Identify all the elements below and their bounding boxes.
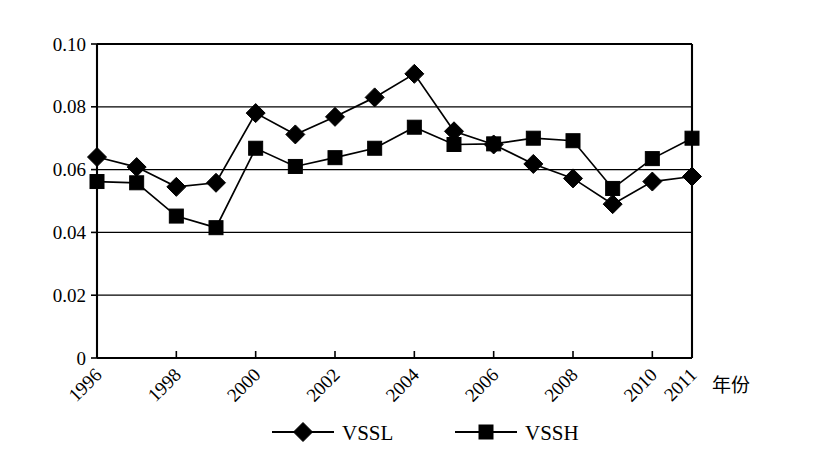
x-tick-labels-group: 199619982000200220042006200820102011 [64,364,701,406]
y-tick-label-0.04: 0.04 [53,222,87,243]
data-point-vssl-2009 [603,195,622,214]
data-point-vssh-2011 [685,131,699,145]
x-tick-label-2002: 2002 [302,364,344,406]
data-point-vssh-1999 [209,221,223,235]
legend-label-vssl: VSSL [342,421,393,445]
line-chart: 00.020.040.060.080.10 199619982000200220… [0,0,817,470]
data-point-vssl-2002 [326,107,345,126]
x-tick-label-2004: 2004 [381,364,423,406]
x-axis-title: 年份 [712,375,750,396]
data-point-vssl-1999 [207,173,226,192]
x-tick-label-2011: 2011 [660,364,701,405]
data-point-vssh-2002 [328,151,342,165]
data-point-vssl-1998 [167,177,186,196]
plot-frame [97,44,692,358]
x-tick-label-2010: 2010 [619,364,661,406]
data-point-vssh-1996 [90,175,104,189]
x-tick-label-1996: 1996 [64,364,106,406]
data-point-vssh-2000 [249,141,263,155]
y-tick-labels-group: 00.020.040.060.080.10 [53,34,87,369]
gridlines-group [97,44,692,295]
data-point-vssl-2001 [286,125,305,144]
chart-figure: 00.020.040.060.080.10 199619982000200220… [0,0,817,470]
x-tick-label-2008: 2008 [540,364,582,406]
y-tick-label-0.06: 0.06 [53,159,86,180]
legend-marker-square-icon [479,425,493,439]
x-tick-label-1998: 1998 [143,364,185,406]
data-point-vssh-2010 [645,152,659,166]
legend-item-vssh[interactable]: VSSH [455,421,579,445]
data-point-vssh-2006 [487,137,501,151]
y-tick-label-0.10: 0.10 [53,34,86,55]
data-point-vssh-2003 [368,141,382,155]
data-point-vssh-1997 [130,176,144,190]
data-point-vssl-2003 [365,88,384,107]
legend-item-vssl[interactable]: VSSL [272,421,393,445]
series-line-vssh [97,127,692,227]
series-line-vssl [97,74,692,204]
data-point-vssh-2005 [447,137,461,151]
y-tick-label-0.08: 0.08 [53,96,86,117]
series-markers-group [88,64,702,234]
data-point-vssl-2004 [405,64,424,83]
data-point-vssl-1997 [127,158,146,177]
y-tick-label-0.02: 0.02 [53,285,86,306]
data-point-vssl-2007 [524,154,543,173]
legend-label-vssh: VSSH [525,421,579,445]
data-point-vssh-2007 [526,131,540,145]
data-point-vssl-2010 [643,172,662,191]
series-lines-group [97,74,692,228]
data-point-vssh-1998 [169,209,183,223]
x-tick-label-2006: 2006 [461,364,503,406]
data-point-vssl-1996 [88,148,107,167]
x-tick-label-2000: 2000 [223,364,265,406]
y-tick-label-0: 0 [77,348,87,369]
legend: VSSLVSSH [272,421,579,445]
data-point-vssl-2008 [564,169,583,188]
data-point-vssh-2009 [606,181,620,195]
data-point-vssh-2001 [288,159,302,173]
data-point-vssh-2008 [566,134,580,148]
data-point-vssh-2004 [407,120,421,134]
legend-marker-diamond-icon [294,423,313,442]
